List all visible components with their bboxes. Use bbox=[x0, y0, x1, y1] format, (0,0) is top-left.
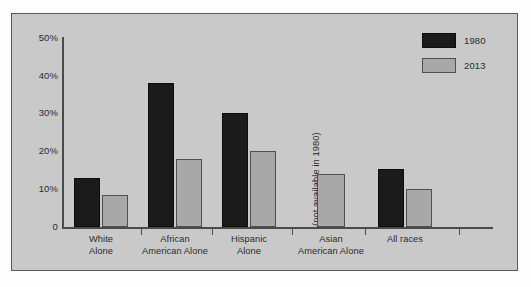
bar-white-alone-1980 bbox=[74, 178, 100, 227]
bar-all-races-1980 bbox=[378, 169, 404, 227]
x-tick-mark bbox=[459, 229, 460, 235]
figure-canvas: 0 10% 20% 30% 40% 50% (not bbox=[0, 0, 531, 287]
y-tick-label-0: 0 bbox=[24, 221, 58, 232]
chart-legend: 1980 2013 bbox=[422, 33, 512, 77]
x-label-line-1: All races bbox=[365, 234, 445, 246]
bar-hispanic-alone-2013 bbox=[250, 151, 276, 227]
legend-item-2013: 2013 bbox=[422, 58, 512, 75]
legend-label-1980: 1980 bbox=[464, 35, 486, 46]
legend-label-2013: 2013 bbox=[464, 60, 486, 71]
legend-item-1980: 1980 bbox=[422, 33, 512, 50]
y-tick-label-20: 20% bbox=[24, 145, 58, 156]
bar-white-alone-2013 bbox=[102, 195, 128, 227]
y-tick-0: 0 bbox=[20, 221, 58, 233]
y-axis-line bbox=[62, 37, 64, 228]
legend-swatch-icon-2013 bbox=[422, 58, 456, 73]
x-label-line-2: American Alone bbox=[276, 246, 386, 258]
bar-african-american-alone-1980 bbox=[148, 83, 174, 227]
y-tick-label-30: 30% bbox=[24, 107, 58, 118]
y-tick-50: 50% bbox=[20, 32, 58, 44]
bar-all-races-2013 bbox=[406, 189, 432, 227]
y-tick-label-50: 50% bbox=[24, 32, 58, 43]
y-tick-label-10: 10% bbox=[24, 183, 58, 194]
y-tick-20: 20% bbox=[20, 145, 58, 157]
y-tick-40: 40% bbox=[20, 70, 58, 82]
y-tick-10: 10% bbox=[20, 183, 58, 195]
bar-african-american-alone-2013 bbox=[176, 159, 202, 227]
x-label-all-races: All races bbox=[365, 234, 445, 246]
y-tick-30: 30% bbox=[20, 107, 58, 119]
x-axis-line bbox=[62, 227, 493, 229]
y-tick-label-40: 40% bbox=[24, 70, 58, 81]
bar-asian-american-alone-2013 bbox=[317, 174, 345, 227]
bar-hispanic-alone-1980 bbox=[222, 113, 248, 227]
legend-swatch-icon-1980 bbox=[422, 33, 456, 48]
